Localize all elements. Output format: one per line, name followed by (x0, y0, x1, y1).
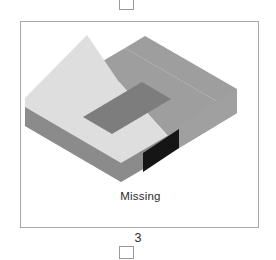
front-left-side-face (25, 107, 121, 182)
top-medium-face-rear (67, 48, 237, 148)
top-light-face-core (25, 35, 179, 182)
missing-black-face (143, 129, 179, 172)
right-side-face (209, 89, 237, 130)
top-light-face (25, 82, 179, 182)
figure-index-label: 3 (0, 231, 276, 245)
isometric-figure (21, 22, 260, 182)
diagram-root: Missing 3 (0, 0, 276, 260)
figure-panel: Missing (20, 21, 259, 228)
square-marker-top[interactable] (119, 0, 134, 10)
slot-face (83, 82, 171, 134)
front-lower-band (121, 129, 179, 182)
top-right-upper-face (125, 36, 237, 113)
isometric-block-svg (21, 22, 260, 182)
right-lower-face (179, 106, 209, 148)
square-marker-bottom[interactable] (119, 246, 134, 259)
figure-caption: Missing (21, 190, 260, 202)
